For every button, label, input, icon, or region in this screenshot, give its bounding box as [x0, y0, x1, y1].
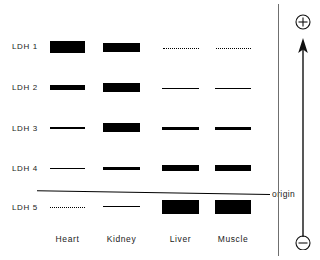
positive-pole-icon — [296, 15, 310, 29]
origin-line — [37, 190, 270, 196]
column-label-heart: Heart — [50, 234, 85, 244]
band-ldh1-muscle — [216, 48, 251, 49]
band-ldh3-liver — [162, 127, 199, 130]
negative-pole-icon — [296, 236, 310, 250]
column-label-muscle: Muscle — [215, 234, 251, 244]
panel-divider — [278, 4, 279, 256]
band-ldh1-liver — [163, 48, 199, 49]
band-ldh5-liver — [162, 200, 199, 214]
band-ldh4-kidney — [103, 167, 140, 170]
band-ldh3-kidney — [103, 123, 140, 132]
band-ldh3-heart — [50, 127, 85, 129]
band-ldh4-heart — [50, 168, 85, 169]
row-label-ldh-3: LDH 3 — [12, 124, 38, 133]
band-ldh2-muscle — [215, 88, 251, 89]
band-ldh4-muscle — [215, 165, 251, 171]
band-ldh3-muscle — [215, 127, 251, 130]
column-label-liver: Liver — [162, 234, 199, 244]
row-label-ldh-5: LDH 5 — [12, 203, 38, 212]
band-ldh5-kidney — [103, 206, 140, 207]
band-ldh5-muscle — [215, 200, 251, 214]
band-ldh2-heart — [50, 85, 85, 90]
row-label-ldh-4: LDH 4 — [12, 164, 38, 173]
row-label-ldh-2: LDH 2 — [12, 83, 38, 92]
column-label-kidney: Kidney — [103, 234, 140, 244]
ldh-isoenzyme-diagram: LDH 1 LDH 2 LDH 3 LDH 4 LDH 5 origin Hea… — [0, 0, 320, 260]
band-ldh4-liver — [162, 165, 199, 171]
row-label-ldh-1: LDH 1 — [12, 42, 38, 51]
band-ldh2-liver — [162, 88, 199, 89]
band-ldh2-kidney — [103, 83, 140, 92]
migration-axis — [290, 12, 316, 250]
band-ldh5-heart — [50, 207, 85, 208]
band-ldh1-kidney — [103, 43, 140, 52]
band-ldh1-heart — [50, 41, 85, 53]
